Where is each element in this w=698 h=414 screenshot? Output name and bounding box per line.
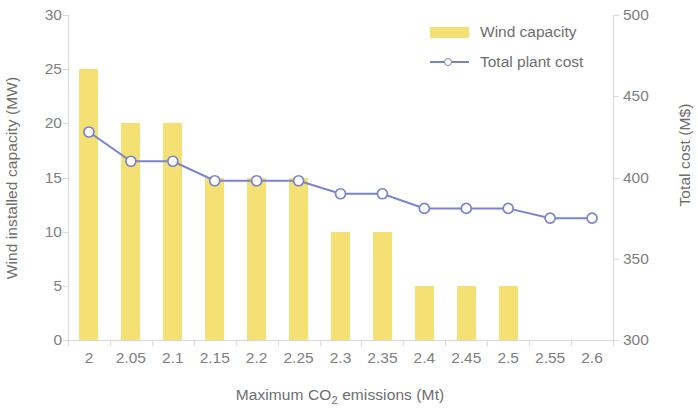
x-axis-tick: 2.25 [283, 349, 313, 367]
x-axis-tick: 2.35 [367, 349, 397, 367]
x-axis-tick: 2.05 [116, 349, 146, 367]
x-axis-tick-mark [278, 341, 279, 346]
legend-item-total-plant-cost: Total plant cost [430, 47, 620, 77]
x-axis-tick-mark [403, 341, 404, 346]
y-axis-left-tick: 10 [20, 223, 62, 241]
cost-line-path [89, 132, 592, 218]
y-axis-left-tick: 15 [20, 169, 62, 187]
y-axis-right-tick: 500 [623, 6, 671, 24]
y-axis-right-tick: 350 [623, 250, 671, 268]
x-axis-title: Maximum CO2 emissions (Mt) [60, 386, 620, 406]
legend-circle-marker-icon [444, 58, 452, 66]
data-point-marker [336, 189, 346, 199]
x-axis-tick-mark [194, 341, 195, 346]
data-point-marker [587, 213, 597, 223]
chart-legend: Wind capacity Total plant cost [430, 17, 620, 77]
data-point-marker [126, 156, 136, 166]
bar-swatch-icon [430, 27, 469, 38]
cost-line-markers [84, 127, 597, 223]
chart-container: Wind installed capacity (MW) Total cost … [0, 0, 698, 414]
legend-item-wind-capacity: Wind capacity [430, 17, 620, 47]
data-point-marker [84, 127, 94, 137]
x-axis-tick-mark [320, 341, 321, 346]
x-axis-tick: 2.15 [200, 349, 230, 367]
y-axis-right-tick: 400 [623, 169, 671, 187]
x-axis-tick-mark [445, 341, 446, 346]
line-circle-swatch-icon [430, 55, 469, 69]
y-axis-left-tick: 0 [20, 331, 62, 349]
x-axis-tick-mark [152, 341, 153, 346]
y-axis-right-title: Total cost (M$) [676, 10, 698, 300]
x-axis-tick: 2.55 [535, 349, 565, 367]
x-axis-tick: 2.45 [451, 349, 481, 367]
y-axis-left-tick-mark [63, 178, 68, 179]
x-axis-tick: 2 [85, 349, 94, 367]
legend-label-wind-capacity: Wind capacity [480, 23, 576, 41]
y-axis-right-tick-mark [614, 15, 619, 16]
x-axis-tick-mark [571, 341, 572, 346]
x-axis-tick-mark [613, 341, 614, 346]
data-point-marker [419, 203, 429, 213]
x-axis-tick-mark [361, 341, 362, 346]
data-point-marker [545, 213, 555, 223]
y-axis-left-tick-mark [63, 286, 68, 287]
y-axis-right-tick-mark [614, 259, 619, 260]
y-axis-left-tick-mark [63, 123, 68, 124]
y-axis-right-tick: 450 [623, 87, 671, 105]
data-point-marker [503, 203, 513, 213]
data-point-marker [461, 203, 471, 213]
y-axis-left-tick: 20 [20, 114, 62, 132]
legend-label-total-plant-cost: Total plant cost [480, 53, 583, 71]
y-axis-right-tick-mark [614, 340, 619, 341]
y-axis-right-tick: 300 [623, 331, 671, 349]
y-axis-left-tick: 30 [20, 6, 62, 24]
x-axis-tick-labels: 22.052.12.152.22.252.32.352.42.452.52.55… [0, 349, 698, 373]
x-axis-tick: 2.5 [497, 349, 519, 367]
y-axis-left-tick: 5 [20, 277, 62, 295]
x-axis-tick-mark [236, 341, 237, 346]
y-axis-right-tick-mark [614, 178, 619, 179]
x-axis-title-prefix: Maximum CO [236, 386, 332, 403]
data-point-marker [294, 176, 304, 186]
y-axis-left-tick-mark [63, 15, 68, 16]
x-axis-tick: 2.1 [162, 349, 184, 367]
y-axis-left-tick-mark [63, 232, 68, 233]
data-point-marker [210, 176, 220, 186]
x-axis-tick-mark [529, 341, 530, 346]
data-point-marker [377, 189, 387, 199]
x-axis-tick: 2.6 [581, 349, 603, 367]
data-point-marker [168, 156, 178, 166]
x-axis-tick-mark [110, 341, 111, 346]
data-point-marker [252, 176, 262, 186]
y-axis-right-tick-mark [614, 96, 619, 97]
x-axis-title-suffix: emissions (Mt) [338, 386, 445, 403]
x-axis-tick-mark [487, 341, 488, 346]
x-axis-tick: 2.3 [330, 349, 352, 367]
x-axis-tick-mark [68, 341, 69, 346]
y-axis-left-tick: 25 [20, 60, 62, 78]
x-axis-tick: 2.2 [246, 349, 268, 367]
x-axis-tick: 2.4 [414, 349, 436, 367]
y-axis-left-tick-mark [63, 69, 68, 70]
